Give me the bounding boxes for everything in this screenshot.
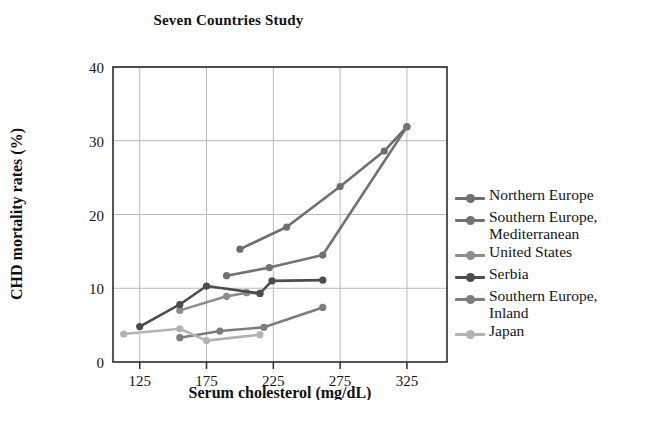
x-axis-label: Serum cholesterol (mg/dL): [189, 384, 372, 400]
series-line: [180, 307, 323, 337]
legend-marker-icon: [455, 247, 485, 264]
plot-area-container: 125175225275325010203040 Serum cholester…: [0, 0, 460, 400]
data-point: [203, 337, 210, 344]
series-northern-europe: [236, 123, 410, 253]
data-point: [319, 251, 326, 258]
data-point: [216, 327, 223, 334]
legend-marker-icon: [455, 212, 485, 229]
legend-item-label: United States: [489, 243, 572, 260]
series-line: [240, 127, 407, 249]
axis-ticks: [140, 362, 407, 369]
y-axis-label: CHD mortality rates (%): [8, 128, 26, 300]
y-tick-label: 20: [89, 208, 104, 224]
data-point: [268, 277, 275, 284]
legend-item-label: Japan: [489, 322, 524, 339]
series-line: [140, 280, 323, 326]
data-point: [403, 123, 410, 130]
y-tick-label: 10: [89, 281, 104, 297]
axis-tick-labels: 125175225275325010203040: [89, 60, 418, 389]
y-tick-label: 30: [89, 134, 104, 150]
data-point: [176, 325, 183, 332]
data-series-layer: [120, 123, 410, 344]
data-point: [319, 277, 326, 284]
y-tick-label: 40: [89, 60, 104, 76]
gridlines: [113, 67, 447, 362]
series-line: [227, 127, 407, 276]
legend-item-label: Southern Europe, Mediterranean: [489, 208, 597, 242]
data-point: [176, 334, 183, 341]
data-point: [256, 290, 263, 297]
data-point: [283, 223, 290, 230]
line-chart-svg: 125175225275325010203040 Serum cholester…: [0, 0, 460, 400]
legend-marker-icon: [455, 190, 485, 207]
data-point: [266, 264, 273, 271]
data-point: [260, 324, 267, 331]
legend-item-label: Southern Europe, Inland: [489, 287, 597, 321]
legend-item-label: Northern Europe: [489, 186, 594, 203]
x-tick-label: 325: [396, 373, 419, 389]
chart-figure: Seven Countries Study 125175225275325010…: [0, 0, 657, 432]
series-southern-europemediterranean: [223, 123, 411, 279]
legend-item[interactable]: United States: [455, 243, 655, 264]
data-point: [256, 331, 263, 338]
legend-item[interactable]: Northern Europe: [455, 186, 655, 207]
data-point: [236, 246, 243, 253]
data-point: [319, 304, 326, 311]
series-serbia: [136, 277, 326, 331]
data-point: [337, 183, 344, 190]
data-point: [203, 282, 210, 289]
legend-marker-icon: [455, 326, 485, 343]
data-point: [136, 323, 143, 330]
data-point: [176, 301, 183, 308]
legend-marker-icon: [455, 269, 485, 286]
chart-legend: Northern EuropeSouthern Europe, Mediterr…: [455, 186, 655, 344]
data-point: [223, 293, 230, 300]
legend-item[interactable]: Southern Europe, Inland: [455, 287, 655, 321]
legend-item[interactable]: Serbia: [455, 265, 655, 286]
legend-marker-icon: [455, 291, 485, 308]
x-tick-label: 125: [128, 373, 151, 389]
legend-item[interactable]: Japan: [455, 322, 655, 343]
data-point: [120, 330, 127, 337]
y-tick-label: 0: [97, 355, 105, 371]
legend-item[interactable]: Southern Europe, Mediterranean: [455, 208, 655, 242]
data-point: [381, 147, 388, 154]
data-point: [223, 272, 230, 279]
legend-item-label: Serbia: [489, 265, 529, 282]
